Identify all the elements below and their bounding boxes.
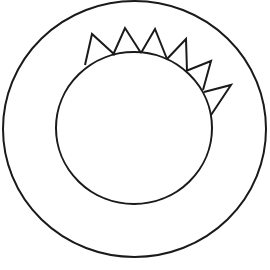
- inner-circle: [56, 52, 212, 204]
- spike-triangle-6: [204, 85, 231, 115]
- outer-circle: [3, 1, 266, 257]
- spike-group: [85, 28, 231, 115]
- diagram-canvas: [0, 0, 270, 270]
- spike-triangle-2: [113, 28, 141, 55]
- spike-triangle-4: [167, 39, 187, 71]
- ring-with-spikes-diagram: [0, 0, 270, 270]
